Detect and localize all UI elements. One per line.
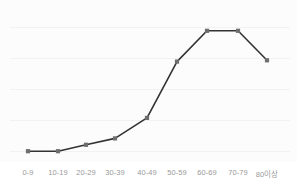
data-point-marker (175, 60, 179, 64)
data-point-marker (265, 58, 269, 62)
x-tick-label-5: 50-59 (167, 168, 187, 177)
x-tick-label-0: 0-9 (22, 168, 33, 177)
line-chart: 0-9 10-19 20-29 30-39 40-49 50-59 60-69 … (0, 0, 297, 190)
data-point-marker (56, 149, 60, 153)
x-tick-label-7: 70-79 (228, 168, 248, 177)
series-line (28, 31, 267, 151)
data-point-marker (236, 29, 240, 33)
x-tick-label-8: 80이상 (256, 168, 279, 179)
plot-area (0, 0, 297, 162)
data-point-marker (26, 149, 30, 153)
data-point-marker (205, 29, 209, 33)
x-axis-labels: 0-9 10-19 20-29 30-39 40-49 50-59 60-69 … (0, 164, 297, 190)
series-markers (26, 29, 269, 154)
x-tick-label-3: 30-39 (105, 168, 125, 177)
data-point-marker (145, 116, 149, 120)
x-tick-label-1: 10-19 (48, 168, 68, 177)
x-tick-label-4: 40-49 (137, 168, 157, 177)
x-tick-label-2: 20-29 (76, 168, 96, 177)
series-line-group (0, 0, 297, 162)
data-point-marker (113, 136, 117, 140)
data-point-marker (84, 143, 88, 147)
x-tick-label-6: 60-69 (197, 168, 217, 177)
